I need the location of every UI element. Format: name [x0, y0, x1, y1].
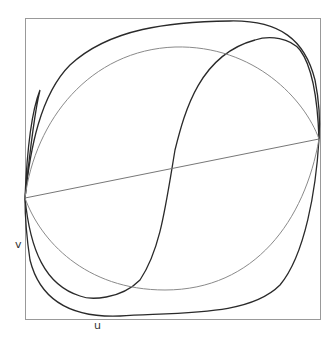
plot-frame	[26, 19, 321, 320]
x-axis-label: u	[94, 320, 101, 331]
plot-canvas	[0, 0, 336, 344]
series-diagonal-chord	[25, 139, 319, 198]
y-axis-label: v	[15, 239, 22, 250]
curve-group	[25, 21, 320, 316]
